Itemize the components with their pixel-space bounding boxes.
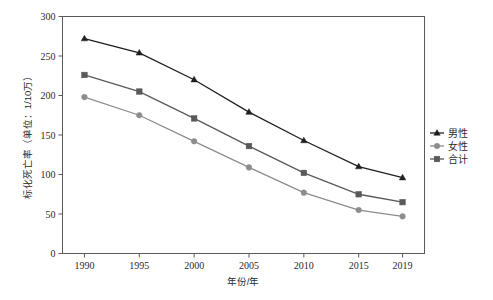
x-axis-title: 年份/年 <box>227 276 260 287</box>
legend-item-2[interactable]: 女性 <box>430 140 468 152</box>
y-tick-label: 300 <box>41 11 56 22</box>
data-point-circle <box>136 112 142 118</box>
data-point-square <box>191 116 197 122</box>
data-point-square <box>82 72 88 78</box>
x-tick-label: 2019 <box>393 260 413 271</box>
data-point-square <box>434 156 440 162</box>
data-series-group <box>81 35 406 219</box>
legend-label: 女性 <box>448 140 468 152</box>
line-chart: 050100150200250300 199019952000200520102… <box>0 0 493 300</box>
y-tick-label: 200 <box>41 90 56 101</box>
x-tick-label: 2010 <box>294 260 314 271</box>
legend-label: 合计 <box>448 153 468 165</box>
legend-item-1[interactable]: 男性 <box>430 127 468 139</box>
legend-label: 男性 <box>448 127 468 139</box>
data-point-circle <box>356 207 362 213</box>
x-axis-tick-labels: 1990199520002005201020152019 <box>74 260 412 271</box>
y-tick-label: 150 <box>41 130 56 141</box>
data-point-square <box>136 89 142 95</box>
plot-frame <box>63 17 425 254</box>
x-tick-label: 2005 <box>239 260 259 271</box>
chart-legend: 男性女性合计 <box>430 127 468 165</box>
series-line <box>84 75 402 202</box>
legend-item-3[interactable]: 合计 <box>430 153 468 165</box>
data-point-square <box>301 170 307 176</box>
series-line <box>84 39 402 178</box>
y-axis-title: 标化死亡率（单位：1/10万） <box>22 71 33 200</box>
data-point-square <box>356 191 362 197</box>
y-tick-label: 100 <box>41 169 56 180</box>
x-tick-label: 1995 <box>129 260 149 271</box>
x-tick-label: 1990 <box>74 260 94 271</box>
series-line <box>84 97 402 216</box>
y-tick-label: 0 <box>51 248 56 259</box>
series-triangle <box>81 35 406 180</box>
y-axis-ticks <box>59 17 63 254</box>
data-point-circle <box>82 94 88 100</box>
data-point-circle <box>400 214 406 220</box>
x-axis-ticks <box>84 254 402 258</box>
x-tick-label: 2015 <box>349 260 369 271</box>
data-point-circle <box>434 143 440 149</box>
y-tick-label: 250 <box>41 51 56 62</box>
data-point-square <box>246 143 252 149</box>
series-square <box>82 72 406 205</box>
y-axis-tick-labels: 050100150200250300 <box>41 11 56 259</box>
chart-page: 050100150200250300 199019952000200520102… <box>0 0 493 300</box>
x-tick-label: 2000 <box>184 260 204 271</box>
data-point-circle <box>301 190 307 196</box>
series-circle <box>82 94 406 219</box>
data-point-triangle <box>81 35 87 41</box>
data-point-circle <box>246 165 252 171</box>
data-point-square <box>400 199 406 205</box>
data-point-circle <box>191 139 197 145</box>
y-tick-label: 50 <box>46 209 56 220</box>
